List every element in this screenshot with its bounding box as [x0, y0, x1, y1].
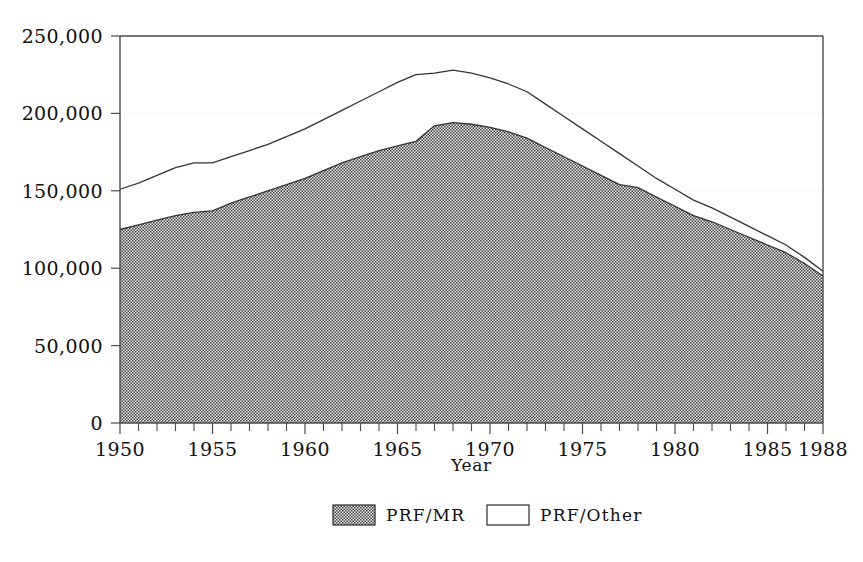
legend-swatch-prf-mr [333, 505, 375, 525]
stacked-area-chart: 050,000100,000150,000200,000250,000 1950… [0, 0, 863, 562]
y-tick-label: 250,000 [22, 25, 103, 47]
x-tick-label: 1965 [373, 438, 423, 460]
y-tick-label: 150,000 [22, 180, 103, 202]
chart-figure: 050,000100,000150,000200,000250,000 1950… [0, 0, 863, 562]
y-tick-label: 0 [91, 412, 104, 434]
x-tick-label: 1960 [280, 438, 330, 460]
x-axis-title: Year [450, 455, 492, 475]
legend-item-prf-other: PRF/Other [487, 505, 642, 525]
y-tick-label: 100,000 [22, 257, 103, 279]
x-tick-label: 1988 [798, 438, 848, 460]
legend-label-prf-other: PRF/Other [540, 505, 642, 525]
legend-label-prf-mr: PRF/MR [386, 505, 465, 525]
y-tick-label: 200,000 [22, 102, 103, 124]
x-tick-label: 1950 [95, 438, 145, 460]
x-tick-label: 1980 [650, 438, 700, 460]
x-tick-label: 1985 [743, 438, 793, 460]
y-tick-label: 50,000 [34, 335, 103, 357]
legend-item-prf-mr: PRF/MR [333, 505, 465, 525]
legend-swatch-prf-other [487, 505, 529, 525]
x-tick-label: 1955 [188, 438, 238, 460]
x-tick-label: 1975 [558, 438, 608, 460]
